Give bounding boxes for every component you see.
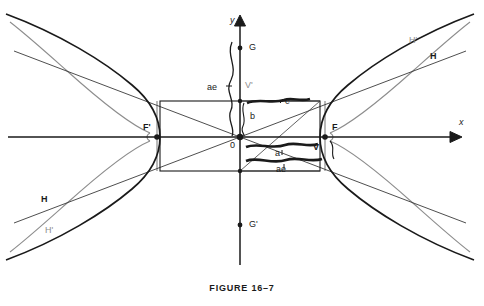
curve-label-h-prime-lower-left: H' — [45, 226, 53, 235]
h-right-branch — [320, 14, 474, 137]
curve-label-h-prime-upper-right: H' — [409, 36, 417, 45]
hyperbola-diagram — [0, 0, 484, 306]
brace-v — [330, 141, 334, 159]
brace-c — [247, 99, 310, 103]
focus-left-dot — [154, 134, 160, 140]
h-left-branch-lower — [6, 137, 160, 260]
x-axis-label: x — [459, 118, 464, 127]
x-axis-arrowhead — [450, 132, 462, 143]
point-g-dot — [238, 46, 243, 51]
point-g-prime-dot — [238, 223, 243, 228]
focus-right-label: F — [332, 123, 338, 132]
vertex-upper-label: V' — [245, 81, 253, 90]
label-b: b — [250, 112, 255, 121]
focus-left-label: F' — [143, 123, 151, 132]
brace-a — [246, 144, 318, 147]
point-g-label: G — [249, 43, 256, 52]
label-c: c — [285, 97, 290, 106]
focus-right-dot — [322, 134, 328, 140]
h-right-branch-lower — [320, 137, 474, 260]
h-prime-left-lower — [10, 141, 150, 252]
label-a: a — [275, 149, 280, 158]
figure-container: y x 0 F' F V' V G G' ae ae b c a H H' H … — [0, 0, 484, 306]
point-g-prime-label: G' — [249, 220, 258, 229]
origin-label: 0 — [230, 141, 235, 150]
y-axis-arrowhead — [235, 15, 246, 26]
figure-caption: FIGURE 16–7 — [0, 283, 484, 293]
h-prime-right-upper — [330, 22, 470, 133]
curve-label-h-upper-right: H — [430, 52, 437, 61]
brace-ae-upper — [229, 42, 234, 136]
curve-label-h-lower-left: H — [41, 195, 48, 204]
origin-dot — [237, 134, 243, 140]
h-prime-left-upper — [10, 22, 150, 133]
brace-b — [242, 103, 244, 136]
vertex-upper-dot — [238, 99, 242, 103]
h-left-branch — [6, 14, 160, 137]
label-ae-upper: ae — [207, 83, 217, 92]
vertex-lower-label: V — [313, 143, 319, 152]
vertex-lower-dot — [238, 169, 242, 173]
y-axis-label: y — [230, 16, 235, 25]
brace-ae-lower — [246, 159, 322, 162]
label-ae-lower: ae — [276, 165, 286, 174]
h-prime-right-lower — [330, 141, 470, 252]
